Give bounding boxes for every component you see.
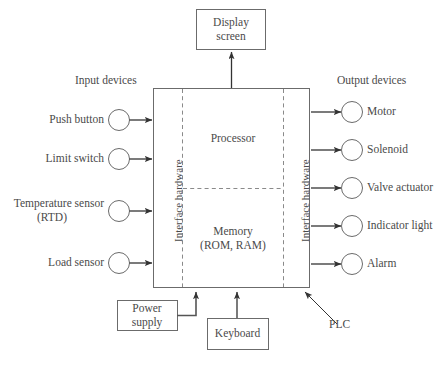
output-node-alarm [342, 254, 363, 275]
output-node-indicator-light [342, 216, 363, 237]
input-devices-header: Input devices [75, 74, 137, 88]
power-supply-label-line1: Power [117, 302, 177, 316]
input-label-temperature-sensor-rtd: (RTD) [0, 211, 104, 225]
output-label-motor: Motor [367, 105, 396, 119]
output-devices-header: Output devices [337, 74, 406, 88]
processor-label: Processor [183, 132, 283, 146]
output-node-motor [342, 102, 363, 123]
display-screen-label-line2: screen [196, 30, 266, 44]
connector-power-supply [177, 292, 196, 316]
memory-label: Memory [183, 225, 283, 239]
memory-detail-label: (ROM, RAM) [183, 239, 283, 253]
input-node-limit-switch [109, 149, 130, 170]
output-label-alarm: Alarm [367, 257, 396, 271]
input-label-push-button: Push button [0, 113, 104, 127]
output-label-valve-actuator: Valve actuator [367, 181, 433, 195]
power-supply-label-line2: supply [117, 316, 177, 330]
output-node-valve-actuator [342, 178, 363, 199]
input-node-push-button [109, 110, 130, 131]
output-label-indicator-light: Indicator light [367, 219, 432, 233]
input-label-load-sensor: Load sensor [0, 256, 104, 270]
output-node-solenoid [342, 140, 363, 161]
plc-callout-label: PLC [329, 318, 350, 332]
display-screen-label-line1: Display [196, 16, 266, 30]
input-node-load-sensor [109, 253, 130, 274]
input-label-temperature-sensor: Temperature sensor [0, 197, 104, 211]
input-node-temperature-sensor [109, 201, 130, 222]
output-label-solenoid: Solenoid [367, 143, 408, 157]
input-label-limit-switch: Limit switch [0, 152, 104, 166]
plc-block-diagram: Input devices Output devices Push button… [0, 0, 440, 366]
interface-hardware-right-label: Interface hardware [299, 159, 311, 242]
keyboard-label: Keyboard [207, 327, 268, 341]
